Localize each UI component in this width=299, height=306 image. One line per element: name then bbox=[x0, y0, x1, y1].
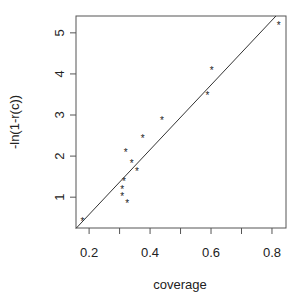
regression-line bbox=[76, 16, 276, 228]
data-point-marker: * bbox=[160, 115, 164, 126]
scatter-chart: 0.20.40.60.8 12345 ************* coverag… bbox=[0, 0, 299, 306]
y-tick-label: 2 bbox=[52, 152, 67, 159]
y-tick-label: 3 bbox=[52, 111, 67, 118]
x-tick-label: 0.6 bbox=[202, 245, 220, 260]
y-tick-label: 5 bbox=[52, 29, 67, 36]
x-tick-label: 0.8 bbox=[263, 245, 281, 260]
data-point-marker: * bbox=[141, 133, 145, 144]
data-point-marker: * bbox=[130, 158, 134, 169]
data-point-marker: * bbox=[122, 176, 126, 187]
x-axis-ticks: 0.20.40.60.8 bbox=[80, 228, 281, 260]
data-point-marker: * bbox=[80, 216, 84, 227]
data-point-marker: * bbox=[210, 65, 214, 76]
x-tick-label: 0.2 bbox=[80, 245, 98, 260]
x-axis-label: coverage bbox=[153, 277, 206, 292]
data-points: ************* bbox=[80, 20, 280, 227]
data-point-marker: * bbox=[124, 147, 128, 158]
y-axis-ticks: 12345 bbox=[52, 29, 76, 201]
x-tick-label: 0.4 bbox=[141, 245, 159, 260]
plot-frame bbox=[76, 16, 286, 228]
y-axis-label: -ln(1-r(c)) bbox=[7, 95, 22, 149]
data-point-marker: * bbox=[135, 166, 139, 177]
y-tick-label: 4 bbox=[52, 70, 67, 77]
data-point-marker: * bbox=[205, 90, 209, 101]
data-point-marker: * bbox=[125, 198, 129, 209]
fitted-line bbox=[76, 16, 276, 228]
data-point-marker: * bbox=[277, 20, 281, 31]
y-tick-label: 1 bbox=[52, 194, 67, 201]
